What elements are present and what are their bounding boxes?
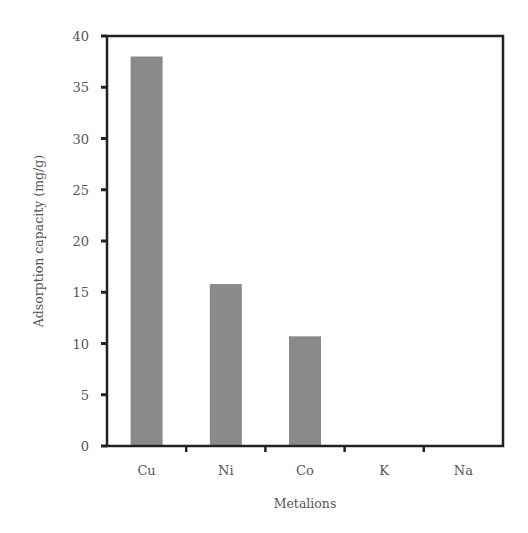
x-axis-title: Metalions — [274, 496, 337, 511]
x-tick-label: Cu — [137, 463, 155, 478]
y-tick-label: 0 — [81, 439, 89, 454]
x-tick-label: K — [379, 463, 389, 478]
x-tick-label: Co — [296, 463, 314, 478]
x-tick-label: Na — [454, 463, 473, 478]
y-axis-ticks: 0510152025303540 — [72, 29, 107, 454]
x-axis-ticks: CuNiCoKNa — [137, 446, 473, 478]
y-tick-label: 25 — [72, 183, 89, 198]
y-tick-label: 15 — [72, 285, 89, 300]
y-tick-label: 40 — [72, 29, 89, 44]
bar-co — [289, 336, 321, 446]
y-tick-label: 5 — [81, 388, 89, 403]
y-tick-label: 20 — [72, 234, 89, 249]
y-tick-label: 10 — [72, 337, 89, 352]
y-tick-label: 30 — [72, 132, 89, 147]
bars-group — [131, 57, 321, 447]
y-tick-label: 35 — [72, 80, 89, 95]
y-axis-title: Adsorption capacity (mg/g) — [31, 155, 46, 328]
bar-cu — [131, 57, 163, 447]
bar-ni — [210, 284, 242, 446]
bar-chart: 0510152025303540 CuNiCoKNa Adsorption ca… — [0, 0, 528, 533]
x-tick-label: Ni — [218, 463, 234, 478]
